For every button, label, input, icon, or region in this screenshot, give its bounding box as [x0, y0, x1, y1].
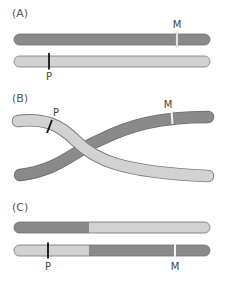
chromosome-a-light: P — [14, 53, 210, 82]
label-m-a: M — [173, 19, 182, 30]
marker-m-b — [172, 111, 173, 124]
chromosome-c-top — [14, 222, 210, 233]
panel-a: M P — [14, 19, 210, 82]
panel-b: M P — [18, 99, 208, 176]
crossing-over-diagram: M P M P — [0, 0, 225, 281]
panel-c: P M — [14, 222, 210, 272]
chromosome-c-bottom: P M — [14, 243, 210, 273]
chromosome-a-dark: M — [14, 19, 210, 48]
label-p-a: P — [46, 71, 52, 82]
label-m-b: M — [164, 99, 173, 110]
label-m-c: M — [171, 261, 180, 272]
label-p-c: P — [45, 261, 51, 272]
label-p-b: P — [53, 107, 59, 118]
